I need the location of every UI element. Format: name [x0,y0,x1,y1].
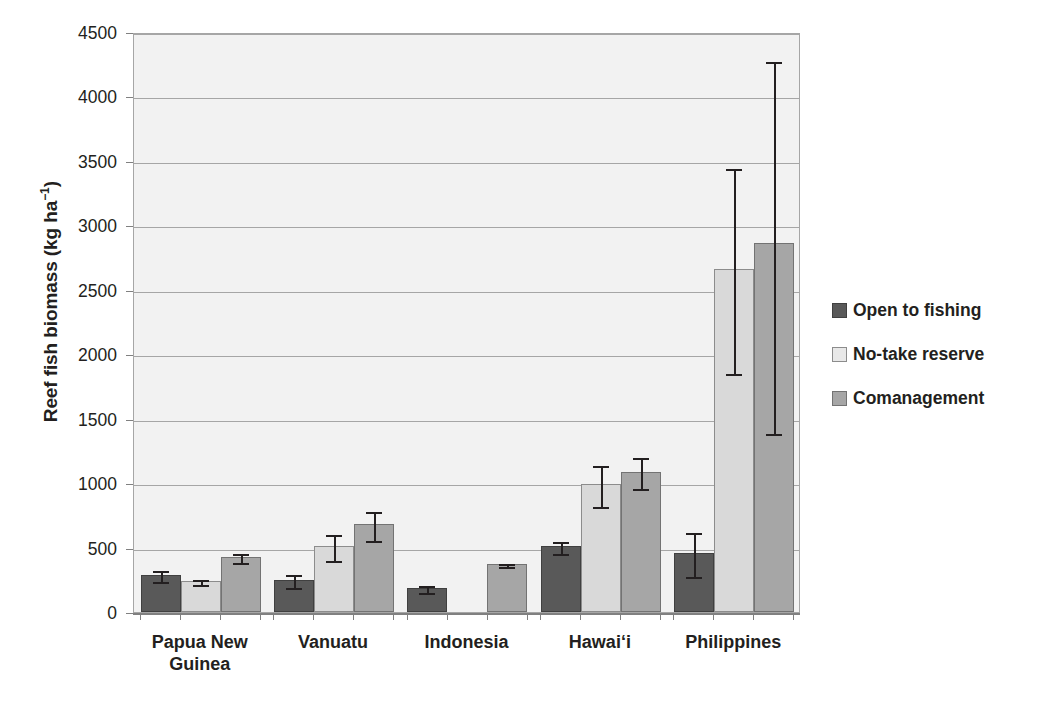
error-bar-cap-bottom [286,588,302,590]
bar-group [134,34,267,612]
error-bar-cap-bottom [153,582,169,584]
error-bar-cap-bottom [366,541,382,543]
legend-swatch-icon [832,303,847,318]
y-axis-tick-mark [126,97,133,98]
x-axis-tick-mark [180,613,181,620]
bar-group [668,34,801,612]
error-bar-cap-top [553,542,569,544]
x-axis-label: Vanuatu [266,631,399,653]
error-bar-cap-bottom [419,593,435,595]
x-axis-tick-mark [140,613,141,620]
x-axis-label: Indonesia [400,631,533,653]
legend-item-notake[interactable]: No-take reserve [832,344,1042,365]
error-bar-cap-bottom [233,563,249,565]
chart-legend: Open to fishingNo-take reserveComanageme… [832,300,1042,432]
error-bar-cap-top [766,62,782,64]
x-axis-tick-mark [313,613,314,620]
x-axis-label-line: Papua New [133,631,266,653]
x-axis-label-line: Guinea [133,653,266,675]
x-axis-label: Hawaiʻi [533,631,666,653]
legend-item-open[interactable]: Open to fishing [832,300,1042,321]
y-axis-tick-labels: 050010001500200025003000350040004500 [55,33,117,613]
error-bar-cap-top [593,466,609,468]
error-bar [641,458,643,489]
y-axis-tick-label: 1500 [55,409,117,430]
x-axis-tick-mark [620,613,621,620]
y-axis-tick-mark [126,226,133,227]
x-axis-tick-mark [273,613,274,620]
y-axis-tick-mark [126,549,133,550]
y-axis-tick-label: 1000 [55,474,117,495]
error-bar-cap-bottom [686,577,702,579]
x-axis-tick-mark [487,613,488,620]
x-axis-label: Philippines [667,631,800,653]
error-bar-cap-top [633,458,649,460]
y-axis-tick-label: 2500 [55,280,117,301]
y-axis-tick-mark [126,484,133,485]
chart-figure: Reef fish biomass (kg ha−1) 050010001500… [0,0,1056,708]
bar[interactable] [541,546,581,612]
plot-area [133,33,800,613]
error-bar-cap-top [193,580,209,582]
error-bar-cap-bottom [499,567,515,569]
y-axis-tick-label: 3500 [55,151,117,172]
x-axis-tick-mark [353,613,354,620]
x-axis-tick-mark [713,613,714,620]
y-axis-tick-label: 3000 [55,216,117,237]
x-axis-tick-mark [447,613,448,620]
x-axis-tick-mark [527,613,528,620]
legend-item-label: No-take reserve [853,344,984,365]
x-axis-label-line: Philippines [667,631,800,653]
y-axis-tick-label: 2000 [55,345,117,366]
bar[interactable] [621,472,661,612]
x-axis-tick-mark [540,613,541,620]
error-bar-cap-bottom [593,507,609,509]
error-bar-cap-bottom [553,554,569,556]
x-axis-line [133,613,800,615]
error-bar [374,512,376,541]
x-axis-tick-mark [673,613,674,620]
x-axis-tick-mark [260,613,261,620]
y-axis-title-exponent: −1 [38,187,52,200]
error-bar-cap-top [686,533,702,535]
y-axis-tick-label: 500 [55,538,117,559]
y-axis-tick-label: 0 [55,603,117,624]
x-axis-tick-mark [580,613,581,620]
bar-group [401,34,534,612]
x-axis-tick-mark [753,613,754,620]
error-bar [774,62,776,433]
error-bar-cap-bottom [726,374,742,376]
y-axis-tick-label: 4500 [55,23,117,44]
legend-item-comgmt[interactable]: Comanagement [832,388,1042,409]
x-axis-label: Papua NewGuinea [133,631,266,675]
x-axis-tick-mark [407,613,408,620]
x-axis-tick-mark [793,613,794,620]
error-bar-cap-top [153,571,169,573]
x-axis-label-line: Hawaiʻi [533,631,666,653]
error-bar-cap-top [419,586,435,588]
error-bar [734,169,736,374]
legend-swatch-icon [832,391,847,406]
error-bar [694,533,696,576]
error-bar-cap-bottom [633,489,649,491]
bar-group [534,34,667,612]
x-axis-label-line: Indonesia [400,631,533,653]
error-bar-cap-bottom [326,561,342,563]
x-axis-tick-mark [220,613,221,620]
error-bar-cap-top [726,169,742,171]
x-axis-label-line: Vanuatu [266,631,399,653]
y-axis-tick-mark [126,613,133,614]
error-bar-cap-top [233,554,249,556]
error-bar-cap-bottom [193,585,209,587]
y-axis-tick-mark [126,355,133,356]
legend-item-label: Open to fishing [853,300,981,321]
error-bar [601,466,603,507]
error-bar-cap-top [499,564,515,566]
legend-swatch-icon [832,347,847,362]
error-bar-cap-top [326,535,342,537]
legend-item-label: Comanagement [853,388,984,409]
bar[interactable] [487,564,527,612]
error-bar-cap-top [366,512,382,514]
error-bar-cap-bottom [766,434,782,436]
y-axis-tick-mark [126,291,133,292]
